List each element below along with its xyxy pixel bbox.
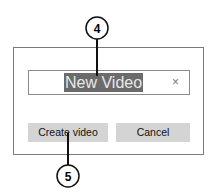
callout-4-circle — [86, 17, 108, 39]
cancel-button[interactable]: Cancel — [116, 123, 190, 142]
callout-5-number: 5 — [65, 170, 72, 184]
callout-4-number: 4 — [94, 22, 101, 36]
callout-5-circle — [57, 165, 79, 187]
video-name-input[interactable]: New Video × — [28, 70, 190, 95]
close-icon[interactable]: × — [172, 74, 179, 91]
create-video-button[interactable]: Create video — [28, 123, 108, 142]
video-name-value: New Video — [64, 73, 143, 92]
